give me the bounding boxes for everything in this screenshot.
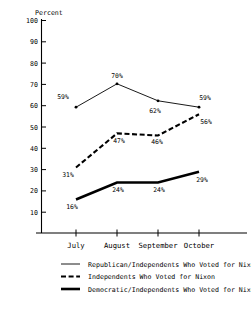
- chart-legend: Republican/Independents Who Voted for Ni…: [61, 261, 251, 294]
- legend-label-independents: Independents Who Voted for Nixon: [88, 273, 215, 281]
- series-democratic-independents: 16% 24% 24% 29%: [66, 172, 208, 211]
- y-axis-title: Percent: [35, 9, 63, 17]
- point-label-rep-september: 62%: [149, 107, 161, 115]
- y-tick-label-70: 70: [30, 81, 38, 89]
- x-tick-label-july: July: [67, 241, 85, 250]
- line-chart: Percent 100 90 80 70 60 50 40 30 20: [0, 0, 251, 316]
- x-tick-label-august: August: [104, 241, 130, 250]
- point-label-rep-august: 70%: [111, 72, 123, 80]
- point-label-rep-october: 59%: [199, 94, 211, 102]
- legend-label-democratic: Democratic/Independents Who Voted for Ni…: [88, 286, 251, 294]
- point-label-dem-september: 24%: [153, 186, 165, 194]
- point-rep-july: [75, 106, 78, 109]
- point-label-dem-october: 29%: [196, 176, 208, 184]
- y-tick-label-30: 30: [30, 166, 38, 174]
- y-tick-label-90: 90: [30, 38, 38, 46]
- y-tick-label-80: 80: [30, 60, 38, 68]
- y-tick-label-60: 60: [30, 102, 38, 110]
- series-independents-line: [76, 114, 199, 167]
- y-tick-label-50: 50: [30, 124, 38, 132]
- series-independents: 31% 47% 46% 56%: [62, 114, 212, 179]
- y-tick-label-100: 100: [26, 17, 38, 25]
- legend-label-republican: Republican/Independents Who Voted for Ni…: [88, 261, 251, 269]
- series-republican-independents: 59% 70% 62% 59%: [57, 72, 211, 115]
- y-tick-label-20: 20: [30, 187, 38, 195]
- point-label-ind-july: 31%: [62, 171, 74, 179]
- y-axis-ticks: 100 90 80 70 60 50 40 30 20 10: [26, 17, 46, 217]
- point-rep-september: [157, 99, 160, 102]
- point-label-ind-september: 46%: [151, 138, 163, 146]
- x-tick-label-september: September: [139, 241, 179, 250]
- point-label-dem-july: 16%: [66, 203, 78, 211]
- point-label-ind-october: 56%: [200, 118, 212, 126]
- point-label-ind-august: 47%: [113, 137, 125, 145]
- point-label-rep-july: 59%: [57, 93, 69, 101]
- y-tick-label-40: 40: [30, 145, 38, 153]
- point-label-dem-august: 24%: [112, 186, 124, 194]
- point-rep-october: [198, 106, 201, 109]
- chart-canvas: Percent 100 90 80 70 60 50 40 30 20: [0, 0, 251, 316]
- point-rep-august: [116, 82, 119, 85]
- series-republican-line: [76, 84, 199, 107]
- x-tick-label-october: October: [184, 241, 215, 250]
- y-tick-label-10: 10: [30, 209, 38, 217]
- series-democratic-line: [76, 172, 199, 200]
